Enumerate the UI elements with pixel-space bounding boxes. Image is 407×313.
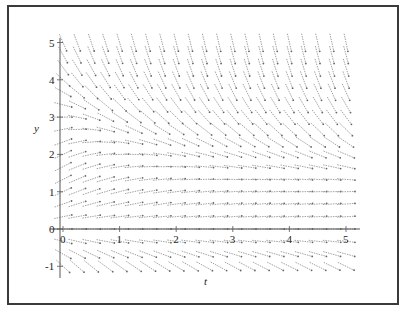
arrowhead-icon [269, 157, 271, 159]
arrowhead-icon [336, 112, 338, 114]
arrowhead-icon [294, 123, 296, 125]
arrowhead-icon [93, 50, 95, 52]
arrowhead-icon [264, 87, 266, 89]
arrowhead-icon [269, 242, 271, 244]
slope-segment [296, 137, 311, 147]
arrowhead-icon [249, 87, 251, 89]
y-tick-label: -1 [45, 260, 54, 272]
arrowhead-icon [97, 271, 99, 273]
arrowhead-icon [239, 134, 241, 136]
arrowhead-icon [192, 75, 194, 77]
arrowhead-icon [235, 87, 237, 89]
arrowhead-icon [193, 87, 195, 89]
slope-segment [69, 250, 85, 258]
arrowhead-icon [81, 74, 83, 76]
arrowhead-icon [324, 146, 326, 148]
arrowhead-icon [235, 75, 237, 77]
arrowhead-icon [82, 86, 84, 88]
slope-segment [69, 188, 86, 195]
slope-segment [86, 72, 96, 87]
arrowhead-icon [220, 63, 222, 65]
arrowhead-icon [70, 174, 72, 176]
arrowhead-icon [128, 215, 130, 217]
arrowhead-icon [305, 63, 307, 65]
arrowhead-icon [283, 202, 285, 204]
arrowhead-icon [351, 123, 353, 125]
arrowhead-icon [268, 270, 270, 272]
arrowhead-icon [71, 138, 73, 140]
arrowhead-icon [237, 112, 239, 114]
arrowhead-icon [184, 145, 186, 147]
arrowhead-icon [151, 87, 153, 89]
slope-segment [83, 250, 99, 258]
arrowhead-icon [71, 106, 73, 108]
arrowhead-icon [99, 176, 101, 178]
arrowhead-icon [354, 179, 356, 181]
slope-segment [54, 103, 71, 107]
arrowhead-icon [198, 215, 200, 217]
arrowhead-icon [263, 63, 265, 65]
arrowhead-icon [99, 242, 101, 244]
slope-segment [55, 250, 71, 259]
slope-segment [299, 97, 308, 112]
arrowhead-icon [226, 270, 228, 272]
arrowhead-icon [96, 86, 98, 88]
slope-segment [253, 262, 269, 270]
arrowhead-icon [183, 134, 185, 136]
arrowhead-icon [71, 116, 73, 118]
arrowhead-icon [109, 87, 111, 89]
slope-segment [254, 123, 267, 135]
arrowhead-icon [207, 75, 209, 77]
slope-segment [224, 251, 241, 256]
slope-segment [68, 115, 86, 119]
slope-segment [183, 124, 198, 135]
slope-segment [99, 99, 113, 111]
arrowhead-icon [269, 256, 271, 258]
slope-segment [225, 138, 241, 147]
arrowhead-icon [197, 134, 199, 136]
arrowhead-icon [170, 202, 172, 204]
t-tick-label: 1 [117, 233, 123, 245]
slope-segment [55, 88, 71, 97]
slope-segment [239, 138, 255, 147]
arrowhead-icon [123, 87, 125, 89]
arrowhead-icon [198, 145, 200, 147]
slope-segment [196, 138, 212, 146]
arrowhead-icon [198, 190, 200, 192]
arrowhead-icon [278, 87, 280, 89]
arrowhead-icon [156, 144, 158, 146]
arrowhead-icon [170, 242, 172, 244]
arrowhead-icon [155, 256, 157, 258]
slope-segment [238, 251, 255, 256]
arrowhead-icon [234, 50, 236, 52]
arrowhead-icon [156, 202, 158, 204]
arrowhead-icon [348, 75, 350, 77]
arrowhead-icon [262, 50, 264, 52]
arrowhead-icon [277, 75, 279, 77]
arrowhead-icon [296, 146, 298, 148]
arrowhead-icon [283, 167, 285, 169]
arrowhead-icon [70, 187, 72, 189]
arrowhead-icon [140, 122, 142, 124]
arrowhead-icon [164, 75, 166, 77]
slope-segment [295, 252, 312, 257]
arrowhead-icon [265, 112, 267, 114]
arrowhead-icon [241, 167, 243, 169]
arrowhead-icon [170, 155, 172, 157]
slope-segment [313, 97, 322, 113]
arrowhead-icon [325, 157, 327, 159]
arrowhead-icon [352, 135, 354, 137]
slope-segment [311, 123, 324, 135]
slope-segment [113, 99, 126, 112]
arrowhead-icon [227, 215, 229, 217]
slope-segment [266, 165, 284, 168]
arrowhead-icon [311, 157, 313, 159]
arrowhead-icon [113, 164, 115, 166]
slope-segment [337, 252, 354, 257]
slope-segment [97, 127, 115, 132]
slope-segment [296, 262, 312, 270]
arrowhead-icon [305, 50, 307, 52]
arrowhead-icon [241, 256, 243, 258]
arrowhead-icon [353, 269, 355, 271]
slope-segment [158, 84, 167, 100]
